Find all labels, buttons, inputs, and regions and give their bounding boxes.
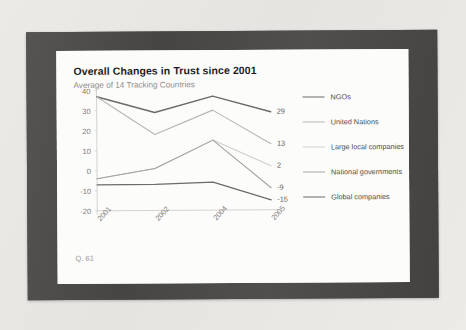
legend-line-swatch xyxy=(303,96,325,97)
legend-item-label: NGOs xyxy=(331,92,351,101)
y-axis-tick-label: 20 xyxy=(69,127,91,136)
legend-line-swatch xyxy=(303,196,325,197)
y-axis-tick-label: 30 xyxy=(69,107,91,116)
y-axis-tick-label: 10 xyxy=(69,147,91,156)
slide-frame: Overall Changes in Trust since 2001 Aver… xyxy=(26,30,439,301)
series-end-label: 29 xyxy=(277,107,285,116)
series-line-2 xyxy=(97,140,271,179)
y-axis-tick-label: -20 xyxy=(69,207,91,216)
series-line-0 xyxy=(97,96,271,113)
legend-item-0[interactable]: NGOs xyxy=(303,91,351,101)
legend-item-label: Global companies xyxy=(331,192,389,201)
legend-line-swatch xyxy=(303,146,325,147)
series-end-label: -9 xyxy=(277,183,284,192)
legend-item-label: National governments xyxy=(331,166,402,175)
series-end-label: -15 xyxy=(277,195,288,204)
legend-line-swatch xyxy=(303,121,325,122)
series-end-label: 13 xyxy=(277,139,285,148)
legend-item-3[interactable]: National governments xyxy=(303,166,402,177)
legend-item-label: United Nations xyxy=(331,117,379,126)
x-axis-line xyxy=(97,210,279,211)
series-line-4 xyxy=(97,182,271,201)
y-axis-tick-label: -10 xyxy=(69,187,91,196)
y-axis-tick-label: 0 xyxy=(69,167,91,176)
legend-item-1[interactable]: United Nations xyxy=(303,116,379,126)
legend-line-swatch xyxy=(303,171,325,172)
legend-item-label: Large local companies xyxy=(331,141,404,150)
question-note: Q. 61 xyxy=(76,254,94,263)
series-line-3 xyxy=(97,140,271,189)
chart-legend: NGOsUnited NationsLarge local companiesN… xyxy=(302,49,409,283)
chart-slide: Overall Changes in Trust since 2001 Aver… xyxy=(56,49,409,284)
slide-inner: Overall Changes in Trust since 2001 Aver… xyxy=(56,49,409,284)
legend-item-2[interactable]: Large local companies xyxy=(303,141,404,152)
series-end-label: 2 xyxy=(277,161,281,170)
y-axis-tick-label: 40 xyxy=(69,87,91,96)
legend-item-4[interactable]: Global companies xyxy=(303,191,389,202)
